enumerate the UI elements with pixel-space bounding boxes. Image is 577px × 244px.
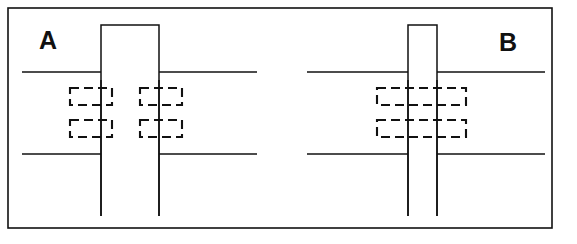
panel-a-rebar-box-upper-right — [140, 88, 182, 105]
panel-a-label: A — [39, 26, 57, 54]
structural-detail-figure: A B — [0, 0, 577, 244]
panel-a-column-outline — [101, 25, 159, 216]
panel-a-rebar-box-upper-left — [70, 88, 112, 105]
panel-b-rebar-box-upper-wide — [377, 88, 466, 105]
panel-b-rebar-box-lower-wide — [377, 120, 466, 137]
diagram-canvas: A B — [0, 0, 577, 244]
panel-a: A — [22, 25, 257, 216]
panel-b: B — [307, 25, 545, 216]
panel-b-label: B — [499, 28, 517, 56]
panel-a-rebar-box-lower-left — [70, 120, 112, 137]
outer-border — [8, 8, 552, 228]
panel-a-rebar-box-lower-right — [140, 120, 182, 137]
